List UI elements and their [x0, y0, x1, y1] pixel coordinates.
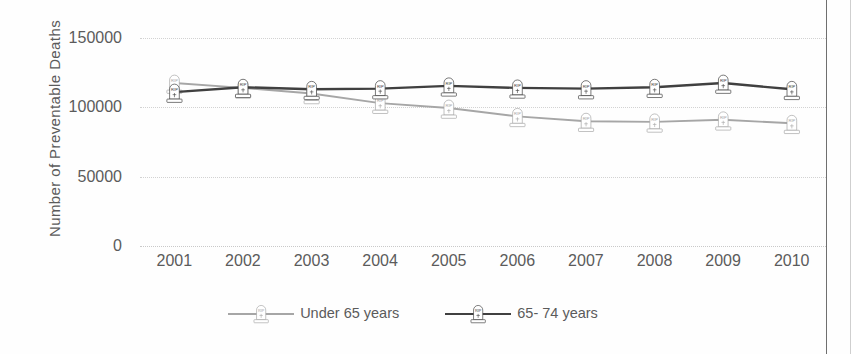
series-layer: RIPRIPRIPRIPRIPRIPRIPRIPRIPRIPRIPRIPRIPR…	[140, 38, 826, 246]
x-tick-label: 2010	[774, 252, 810, 270]
svg-text:RIP: RIP	[171, 78, 178, 83]
x-tick-label: 2006	[500, 252, 536, 270]
chart-legend: RIPUnder 65 yearsRIP65- 74 years	[0, 300, 826, 326]
svg-text:RIP: RIP	[651, 82, 658, 87]
x-tick-label: 2005	[431, 252, 467, 270]
svg-text:RIP: RIP	[720, 78, 727, 83]
y-tick-label: 150000	[69, 29, 122, 47]
gridline-0	[140, 246, 826, 248]
svg-text:RIP: RIP	[240, 82, 247, 87]
svg-text:RIP: RIP	[377, 84, 384, 89]
y-tick-label: 0	[113, 237, 122, 255]
tombstone-rip-marker: RIP	[304, 81, 319, 99]
x-axis-tick-labels: 2001200220032004200520062007200820092010	[140, 252, 826, 280]
svg-text:RIP: RIP	[308, 84, 315, 89]
tombstone-rip-marker: RIP	[578, 113, 593, 131]
x-tick-label: 2001	[157, 252, 193, 270]
legend-label: Under 65 years	[300, 305, 399, 321]
svg-text:RIP: RIP	[514, 83, 521, 88]
legend-key: RIP	[445, 300, 511, 326]
plot-area: RIPRIPRIPRIPRIPRIPRIPRIPRIPRIPRIPRIPRIPR…	[140, 38, 826, 246]
legend-tombstone-icon: RIP	[249, 300, 273, 326]
svg-text:RIP: RIP	[445, 81, 452, 86]
y-tick-label: 50000	[78, 168, 123, 186]
tombstone-rip-marker: RIP	[647, 114, 662, 132]
svg-text:RIP: RIP	[583, 116, 590, 121]
y-tick-label: 100000	[69, 98, 122, 116]
legend-key: RIP	[228, 300, 294, 326]
x-tick-label: 2002	[225, 252, 261, 270]
series-65-74-years: RIPRIPRIPRIPRIPRIPRIPRIPRIPRIP	[167, 75, 800, 102]
x-tick-label: 2007	[568, 252, 604, 270]
x-tick-label: 2003	[294, 252, 330, 270]
preventable-deaths-line-chart: Number of Preventable Deaths 15000010000…	[0, 0, 851, 354]
x-tick-label: 2009	[705, 252, 741, 270]
chart-frame-right-border	[826, 0, 827, 354]
svg-text:RIP: RIP	[258, 309, 265, 313]
svg-text:RIP: RIP	[651, 117, 658, 122]
x-tick-label: 2008	[637, 252, 673, 270]
svg-text:RIP: RIP	[514, 111, 521, 116]
svg-text:RIP: RIP	[720, 115, 727, 120]
legend-item-under-65-years[interactable]: RIPUnder 65 years	[228, 300, 399, 326]
y-axis-tick-labels: 150000100000500000	[0, 38, 130, 246]
legend-label: 65- 74 years	[517, 305, 598, 321]
tombstone-rip-marker: RIP	[784, 115, 799, 133]
tombstone-rip-marker: RIP	[254, 305, 268, 322]
tombstone-rip-marker: RIP	[471, 305, 485, 322]
svg-text:RIP: RIP	[788, 118, 795, 123]
x-tick-label: 2004	[362, 252, 398, 270]
legend-item-65-74-years[interactable]: RIP65- 74 years	[445, 300, 598, 326]
legend-tombstone-icon: RIP	[466, 300, 490, 326]
svg-text:RIP: RIP	[475, 309, 482, 313]
svg-text:RIP: RIP	[788, 84, 795, 89]
svg-text:RIP: RIP	[583, 84, 590, 89]
svg-text:RIP: RIP	[171, 87, 178, 92]
svg-text:RIP: RIP	[445, 103, 452, 108]
tombstone-rip-marker: RIP	[784, 81, 799, 99]
tombstone-rip-marker: RIP	[578, 81, 593, 99]
